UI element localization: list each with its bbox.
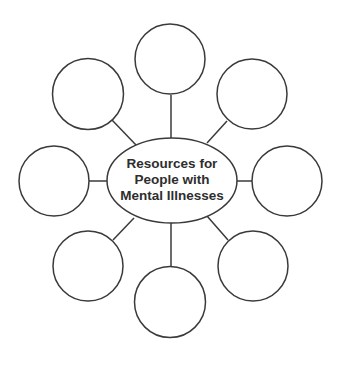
central-title-line-2: People with xyxy=(134,172,209,187)
satellite-node-bottom[interactable] xyxy=(135,267,206,338)
satellite-node-lower-right[interactable] xyxy=(218,231,288,301)
connector-upper-left xyxy=(112,120,136,145)
connector-lower-right xyxy=(207,216,228,240)
satellite-node-lower-left[interactable] xyxy=(53,231,123,301)
connector-lower-left xyxy=(113,218,134,240)
central-title-line-3: Mental Illnesses xyxy=(120,188,224,203)
satellite-node-upper-left[interactable] xyxy=(53,59,124,130)
satellite-node-left[interactable] xyxy=(19,146,89,216)
satellite-node-top[interactable] xyxy=(135,24,205,94)
satellite-node-right[interactable] xyxy=(252,146,322,216)
central-topic-node: Resources for People with Mental Illness… xyxy=(107,138,237,223)
satellite-node-upper-right[interactable] xyxy=(217,59,287,129)
central-title-line-1: Resources for xyxy=(127,156,219,171)
connector-upper-right xyxy=(207,121,227,143)
concept-web-diagram: Resources for People with Mental Illness… xyxy=(0,0,339,367)
